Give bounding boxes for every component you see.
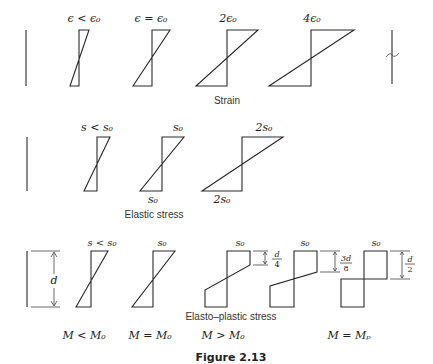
strain-diagram-2x-yield: 2ϵ₀ [196,12,258,86]
label-ep-below-yield: s < s₀ [87,237,116,248]
label-strain-2x: 2ϵ₀ [218,12,237,25]
elasto-plastic-row-title: Elasto–plastic stress [185,311,276,322]
figure-caption: Figure 2.13 [196,351,267,364]
label-stress-2x-top: 2s₀ [254,121,273,134]
elastic-stress-2x-yield: 2s₀ 2s₀ [202,121,283,206]
figure-2-13-diagram: ϵ < ϵ₀ ϵ = ϵ₀ 2ϵ₀ 4ϵ₀ Strain s < s₀ [0,0,433,364]
elastic-stress-at-yield: s₀ s₀ [140,121,184,206]
label-stress-below-yield: s < s₀ [81,121,114,134]
ep-stress-partial-plastic-three-eighths: s₀ 3d 8 [270,237,352,307]
moment-label-plastic: M = Mₚ [326,329,371,342]
label-stress-yield-top: s₀ [173,121,184,134]
strain-diagram-at-yield: ϵ = ϵ₀ [133,12,170,86]
ep-stress-fully-plastic: s₀ d 2 [341,237,415,307]
label-ep-partial-a: s₀ [235,237,244,248]
frac-a-num: d [274,250,279,259]
label-stress-2x-bottom: 2s₀ [212,193,231,206]
label-stress-yield-bottom: s₀ [148,193,159,206]
break-symbol-icon [386,30,399,84]
frac-c-den: 2 [407,265,412,274]
ep-stress-at-yield: s₀ [132,237,175,307]
ep-stress-below-yield: s < s₀ [76,237,117,307]
elasto-plastic-row: d s < s₀ s₀ s₀ d 4 s₀ [27,237,415,342]
label-strain-at-yield: ϵ = ϵ₀ [135,12,169,25]
frac-c-num: d [407,255,412,264]
depth-dimension: d [31,251,60,307]
strain-row-title: Strain [214,95,240,106]
moment-label-at-yield: M = M₀ [127,329,172,342]
strain-diagram-4x-yield: 4ϵ₀ [269,12,354,86]
frac-a-den: 4 [274,260,279,269]
strain-row: ϵ < ϵ₀ ϵ = ϵ₀ 2ϵ₀ 4ϵ₀ Strain [26,12,399,106]
label-ep-at-yield: s₀ [157,237,166,248]
label-depth: d [50,274,57,287]
strain-diagram-below-yield: ϵ < ϵ₀ [68,12,102,86]
label-ep-partial-b: s₀ [300,237,309,248]
label-ep-full: s₀ [371,237,380,248]
frac-b-den: 8 [343,264,348,273]
moment-label-above-yield: M > M₀ [200,329,245,342]
elastic-stress-below-yield: s < s₀ [81,121,114,191]
label-strain-4x: 4ϵ₀ [302,12,321,25]
moment-label-below-yield: M < M₀ [61,329,106,342]
frac-b-num: 3d [341,254,351,263]
label-strain-below-yield: ϵ < ϵ₀ [68,12,102,25]
elastic-stress-row: s < s₀ s₀ s₀ 2s₀ 2s₀ Elastic stress [27,121,283,220]
elastic-row-title: Elastic stress [125,209,184,220]
